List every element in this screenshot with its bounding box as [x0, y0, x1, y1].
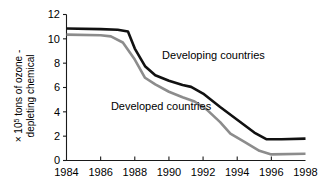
chart-container: 024681012 198419861988199019921994199619… [0, 0, 320, 192]
x-tick-label-1986: 1986 [88, 166, 112, 178]
y-axis-title: × 105 tons of ozone - depleting chemical [13, 50, 36, 143]
x-tick-label-1984: 1984 [54, 166, 78, 178]
y-tick-label-10: 10 [48, 33, 60, 45]
x-tick-label-1996: 1996 [259, 166, 283, 178]
x-tick-label-1990: 1990 [157, 166, 181, 178]
y-axis-title-rest: tons of ozone - [13, 50, 24, 119]
y-axis-title-line-1: × 105 tons of ozone - [13, 50, 24, 143]
x-tick-label-1994: 1994 [225, 166, 249, 178]
x-tick-label-1988: 1988 [123, 166, 147, 178]
x-tick-label-1998: 1998 [293, 166, 317, 178]
y-axis-tick-labels: 024681012 [48, 8, 60, 166]
series-lines [67, 28, 306, 154]
y-tick-label-6: 6 [54, 81, 60, 93]
y-axis-title-multiplier: × 10 [13, 122, 24, 142]
y-tick-label-0: 0 [54, 154, 60, 166]
x-axis-tick-labels: 19841986198819901992199419961998 [54, 166, 317, 178]
y-tick-label-4: 4 [54, 106, 60, 118]
x-axis-ticks [101, 157, 272, 161]
y-tick-label-12: 12 [48, 8, 60, 20]
series-label-developed-countries: Developed countries [111, 100, 212, 112]
series-label-developing-countries: Developing countries [162, 49, 265, 61]
series-line-developing-countries [67, 28, 306, 139]
y-tick-label-2: 2 [54, 130, 60, 142]
y-tick-label-8: 8 [54, 57, 60, 69]
y-axis-title-line-2: depleting chemical [25, 55, 36, 138]
ozone-depleting-chemical-line-chart: 024681012 198419861988199019921994199619… [0, 0, 320, 192]
x-tick-label-1992: 1992 [191, 166, 215, 178]
